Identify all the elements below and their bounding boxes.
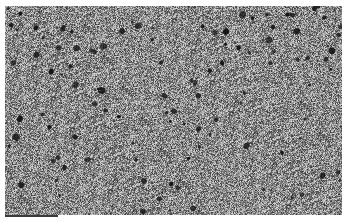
scale-bar — [5, 215, 58, 217]
micrograph-texture — [5, 6, 342, 215]
micrograph-image — [5, 6, 342, 215]
